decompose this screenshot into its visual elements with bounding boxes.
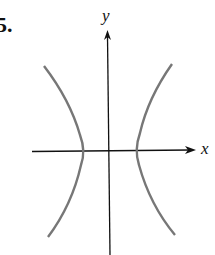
hyperbola-graph [0, 0, 215, 255]
y-axis [104, 30, 111, 255]
x-axis [32, 146, 196, 154]
hyperbola-right-branch [137, 64, 175, 235]
